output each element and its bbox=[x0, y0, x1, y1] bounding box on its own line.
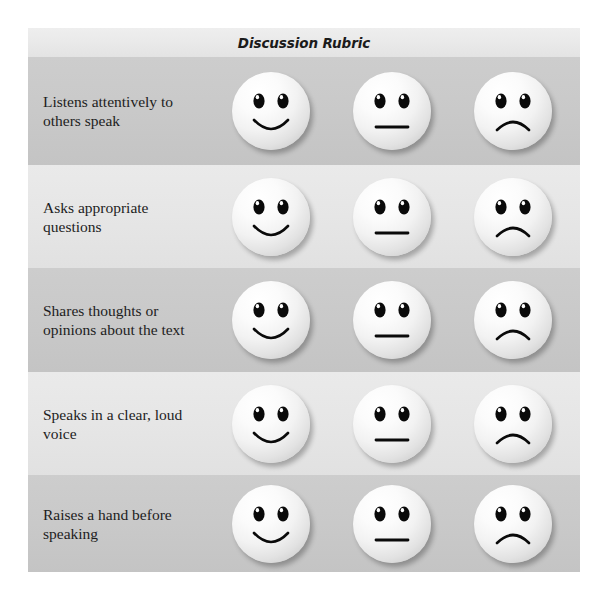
rubric-page: Discussion Rubric Listens attentively to… bbox=[0, 0, 608, 600]
rubric-title-band: Discussion Rubric bbox=[28, 28, 580, 57]
rubric-criterion-label: Asks appropriate questions bbox=[28, 198, 210, 236]
rubric-criterion-label: Speaks in a clear, loud voice bbox=[28, 405, 210, 443]
rating-cell-neutral[interactable] bbox=[353, 485, 431, 563]
rating-cell-happy[interactable] bbox=[232, 72, 310, 150]
sad-face-icon[interactable] bbox=[474, 385, 552, 463]
rubric-row: Raises a hand before speaking bbox=[28, 475, 580, 572]
rubric-rating-cells bbox=[210, 372, 580, 475]
neutral-face-icon[interactable] bbox=[353, 178, 431, 256]
rubric-rating-cells bbox=[210, 165, 580, 268]
happy-face-icon[interactable] bbox=[232, 72, 310, 150]
rating-cell-happy[interactable] bbox=[232, 385, 310, 463]
rating-cell-happy[interactable] bbox=[232, 178, 310, 256]
rating-cell-neutral[interactable] bbox=[353, 281, 431, 359]
rubric-row: Asks appropriate questions bbox=[28, 165, 580, 268]
rubric-rating-cells bbox=[210, 57, 580, 165]
rating-cell-sad[interactable] bbox=[474, 281, 552, 359]
neutral-face-icon[interactable] bbox=[353, 385, 431, 463]
rubric-criterion-label: Listens attentively to others speak bbox=[28, 92, 210, 130]
rating-cell-sad[interactable] bbox=[474, 485, 552, 563]
rating-cell-sad[interactable] bbox=[474, 72, 552, 150]
sad-face-icon[interactable] bbox=[474, 72, 552, 150]
neutral-face-icon[interactable] bbox=[353, 281, 431, 359]
sad-face-icon[interactable] bbox=[474, 178, 552, 256]
rubric-rating-cells bbox=[210, 268, 580, 372]
happy-face-icon[interactable] bbox=[232, 281, 310, 359]
neutral-face-icon[interactable] bbox=[353, 72, 431, 150]
rating-cell-sad[interactable] bbox=[474, 385, 552, 463]
happy-face-icon[interactable] bbox=[232, 178, 310, 256]
rating-cell-neutral[interactable] bbox=[353, 72, 431, 150]
rating-cell-neutral[interactable] bbox=[353, 385, 431, 463]
rubric-criterion-label: Raises a hand before speaking bbox=[28, 505, 210, 543]
sad-face-icon[interactable] bbox=[474, 281, 552, 359]
rubric-row: Shares thoughts or opinions about the te… bbox=[28, 268, 580, 372]
happy-face-icon[interactable] bbox=[232, 485, 310, 563]
happy-face-icon[interactable] bbox=[232, 385, 310, 463]
rubric-row: Listens attentively to others speak bbox=[28, 57, 580, 165]
rubric-rating-cells bbox=[210, 475, 580, 572]
rubric-criterion-label: Shares thoughts or opinions about the te… bbox=[28, 301, 210, 339]
neutral-face-icon[interactable] bbox=[353, 485, 431, 563]
discussion-rubric-table: Discussion Rubric Listens attentively to… bbox=[28, 28, 580, 572]
page-title: Discussion Rubric bbox=[238, 35, 370, 51]
rating-cell-neutral[interactable] bbox=[353, 178, 431, 256]
rating-cell-happy[interactable] bbox=[232, 281, 310, 359]
rating-cell-sad[interactable] bbox=[474, 178, 552, 256]
rubric-row: Speaks in a clear, loud voice bbox=[28, 372, 580, 475]
rating-cell-happy[interactable] bbox=[232, 485, 310, 563]
sad-face-icon[interactable] bbox=[474, 485, 552, 563]
